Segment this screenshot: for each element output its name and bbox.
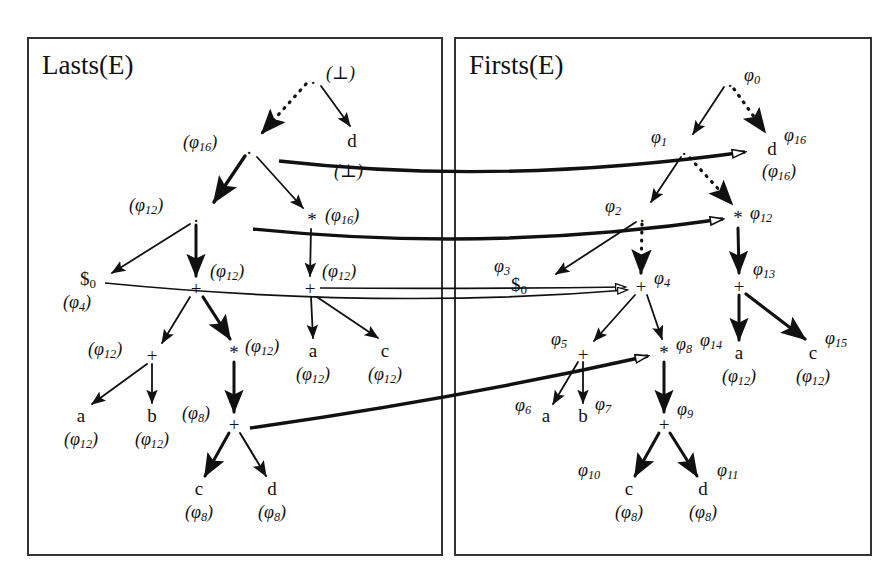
node-L15-symbol: c: [195, 479, 203, 498]
edge-L0-L2: [321, 86, 350, 126]
edge-L6-L9: [203, 297, 230, 339]
panel-title-lasts: Lasts(E): [42, 52, 133, 79]
node-L0-annotation: (⊥): [326, 64, 355, 82]
node-R1-label: φ1: [651, 128, 667, 149]
node-R2-annotation: (φ16): [762, 162, 796, 183]
edge-R3-R6: [641, 224, 642, 273]
node-R15-annotation: (φ8): [615, 503, 643, 524]
panel-title-firsts: Firsts(E): [469, 52, 564, 79]
node-R0-symbol: .: [728, 71, 733, 90]
node-R2-symbol: d: [767, 139, 777, 158]
node-L11-annotation: (φ12): [368, 365, 402, 386]
node-R10-annotation: (φ12): [722, 367, 756, 388]
edge-R1-R4: [690, 158, 732, 204]
node-R8-symbol: +: [578, 345, 589, 364]
node-L6-annotation: (φ12): [210, 262, 244, 283]
node-R15-symbol: c: [625, 479, 633, 498]
node-L8-symbol: +: [147, 346, 158, 365]
edge-R14-R15: [635, 433, 659, 476]
node-L12-annotation: (φ12): [64, 430, 98, 451]
edge-R0-R1: [693, 87, 724, 134]
edge-L14-L15: [205, 433, 229, 476]
node-R13-label: φ7: [595, 395, 611, 416]
node-R7-label: φ13: [753, 260, 775, 281]
node-R12-symbol: a: [542, 406, 550, 425]
node-R12-label: φ6: [515, 396, 531, 417]
edge-R8-R12: [553, 362, 578, 404]
node-L13-symbol: b: [147, 406, 157, 425]
cross-link-plus-to-plus: [320, 287, 625, 288]
edge-R14-R16: [670, 433, 697, 476]
node-L3-annotation: (φ12): [129, 196, 163, 217]
node-L11-symbol: c: [381, 341, 389, 360]
node-L16-annotation: (φ8): [258, 503, 286, 524]
node-R11-symbol: c: [809, 343, 817, 362]
diagram-vector-layer: [0, 0, 895, 586]
edge-L8-L12: [92, 364, 147, 404]
node-R9-label: φ8: [676, 335, 692, 356]
edge-R6-R9: [647, 295, 662, 339]
node-L2-symbol: d: [347, 131, 357, 150]
node-R16-annotation: (φ8): [689, 503, 717, 524]
node-L13-annotation: (φ12): [135, 430, 169, 451]
edge-L7-L10: [311, 297, 313, 338]
node-R6-symbol: +: [636, 277, 647, 296]
node-L4-symbol: *: [307, 210, 317, 229]
node-R9-symbol: *: [659, 343, 669, 362]
node-L9-symbol: *: [229, 343, 239, 362]
edge-L6-L8: [162, 297, 190, 343]
node-L5-annotation: (φ4): [63, 293, 91, 314]
node-R4-symbol: *: [733, 208, 743, 227]
edge-R6-R8: [594, 295, 635, 341]
node-L10-symbol: a: [309, 341, 317, 360]
edge-L14-L16: [240, 433, 266, 476]
node-R5-symbol: $0: [511, 275, 527, 298]
edge-L7-L11: [317, 297, 378, 338]
node-R10-label: φ14: [700, 331, 722, 352]
cross-link-star-to-star: [253, 219, 723, 239]
node-L15-annotation: (φ8): [185, 503, 213, 524]
cross-link-dollar-to-plus: [105, 283, 627, 299]
figure-canvas: Lasts(E) Firsts(E) . (⊥) . (φ16) d (⊥) .…: [0, 0, 895, 586]
node-R13-symbol: b: [578, 406, 588, 425]
node-L3-symbol: .: [194, 206, 199, 225]
node-L0-symbol: .: [311, 68, 316, 87]
node-R3-symbol: .: [640, 206, 645, 225]
edge-L3-L5: [112, 224, 190, 273]
node-R5-label: φ3: [494, 257, 510, 278]
node-R10-symbol: a: [735, 343, 743, 362]
node-L6-symbol: +: [191, 279, 202, 298]
node-R15-label: φ10: [578, 461, 600, 482]
node-L7-symbol: +: [305, 279, 316, 298]
node-R14-symbol: +: [659, 415, 670, 434]
node-R3-label: φ2: [605, 197, 621, 218]
edge-R7-R11: [746, 294, 805, 339]
edge-L1-L3: [214, 156, 245, 202]
node-R1-symbol: .: [682, 139, 687, 158]
node-R16-label: φ11: [717, 461, 738, 482]
node-L9-annotation: (φ12): [245, 337, 279, 358]
edge-R0-R2: [734, 89, 765, 132]
node-R4-label: φ12: [750, 204, 772, 225]
node-R11-annotation: (φ12): [796, 367, 830, 388]
node-L14-symbol: +: [229, 415, 240, 434]
node-L12-symbol: a: [77, 406, 85, 425]
node-L16-symbol: d: [267, 479, 277, 498]
node-R11-label: φ15: [825, 329, 847, 350]
node-R0-label: φ0: [744, 66, 760, 87]
edge-R4-R7: [738, 228, 739, 273]
edge-L1-L4: [257, 157, 303, 208]
node-L1-symbol: .: [247, 138, 252, 157]
node-L7-annotation: (φ12): [322, 262, 356, 283]
edge-L0-L1: [262, 84, 306, 133]
node-R16-symbol: d: [698, 479, 708, 498]
node-L8-annotation: (φ12): [88, 340, 122, 361]
node-R6-label: φ4: [654, 269, 670, 290]
node-L1-annotation: (φ16): [183, 133, 217, 154]
edge-L4-L7: [310, 229, 311, 276]
node-L5-symbol: $0: [80, 269, 96, 292]
node-L14-annotation: (φ8): [182, 404, 210, 425]
node-R2-label: φ16: [784, 126, 806, 147]
node-R14-label: φ9: [677, 400, 693, 421]
node-L10-annotation: (φ12): [296, 365, 330, 386]
